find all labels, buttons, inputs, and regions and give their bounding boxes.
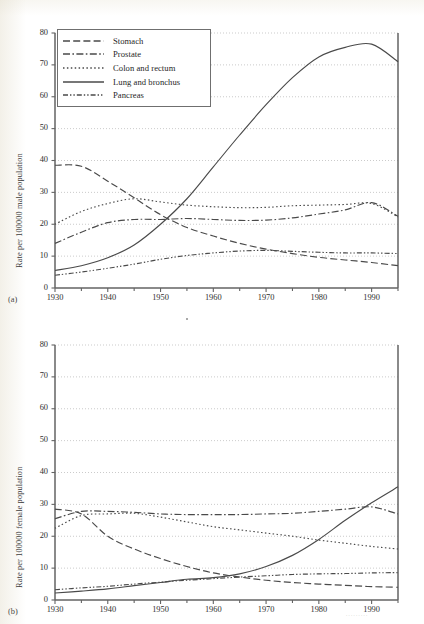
y-tick-label: 60 (26, 403, 48, 412)
legend-item: Stomach (63, 34, 203, 48)
x-tick-label: 1960 (193, 605, 233, 614)
legend-label: Colon and rectum (113, 63, 175, 73)
panel-letter-b: (b) (8, 607, 18, 616)
plot-area-b (0, 312, 424, 624)
figure-panel-a: Rate per 100000 male population 01020304… (0, 0, 424, 312)
x-tick-label: 1940 (88, 293, 128, 302)
y-tick-label: 70 (26, 59, 48, 68)
x-tick-label: 1990 (352, 293, 392, 302)
series-line-colon-and-rectum (55, 513, 398, 549)
y-tick-label: 0 (26, 283, 48, 292)
y-tick-label: 80 (26, 340, 48, 349)
series-line-pancreas (55, 250, 398, 275)
x-tick-label: 1930 (35, 605, 75, 614)
legend-label: Pancreas (113, 90, 144, 100)
y-axis-title-a: Rate per 100000 male population (15, 153, 24, 268)
y-tick-label: 40 (26, 467, 48, 476)
legend-swatch-dash-dot-dot-icon (63, 90, 104, 100)
legend-label: Prostate (113, 49, 141, 59)
x-tick-label: 1950 (141, 293, 181, 302)
series-line-lung-and-bronchus (55, 487, 398, 593)
x-tick-label: 1980 (299, 293, 339, 302)
legend-item: Pancreas (63, 88, 203, 102)
scan-speck (186, 318, 188, 320)
legend-swatch-dash-dot-icon (63, 49, 104, 59)
panel-letter-a: (a) (8, 295, 17, 304)
legend-a: StomachProstateColon and rectumLung and … (57, 29, 211, 107)
x-tick-label: 1950 (141, 605, 181, 614)
y-tick-label: 40 (26, 155, 48, 164)
y-tick-label: 60 (26, 91, 48, 100)
x-tick-label: 1980 (299, 605, 339, 614)
y-tick-label: 10 (26, 251, 48, 260)
x-tick-label: 1960 (193, 293, 233, 302)
y-tick-label: 20 (26, 531, 48, 540)
y-tick-label: 20 (26, 219, 48, 228)
x-tick-label: 1940 (88, 605, 128, 614)
scan-edge-mark: . . . . . . . . . (346, 612, 367, 617)
y-tick-label: 0 (26, 595, 48, 604)
y-tick-label: 30 (26, 499, 48, 508)
y-tick-label: 50 (26, 435, 48, 444)
y-axis-title-b: Rate per 100000 female population (15, 467, 24, 588)
series-line-prostate (55, 202, 398, 243)
y-tick-label: 50 (26, 123, 48, 132)
legend-swatch-dashed-icon (63, 36, 104, 46)
legend-item: Lung and bronchus (63, 75, 203, 89)
legend-item: Colon and rectum (63, 61, 203, 75)
legend-label: Lung and bronchus (113, 77, 180, 87)
x-tick-label: 1970 (246, 293, 286, 302)
legend-label: Stomach (113, 36, 143, 46)
x-tick-label: 1930 (35, 293, 75, 302)
figure-panel-b: Rate per 100000 female population 010203… (0, 312, 424, 624)
y-tick-label: 10 (26, 563, 48, 572)
y-tick-label: 80 (26, 28, 48, 37)
legend-swatch-dotted-icon (63, 63, 104, 73)
y-tick-label: 30 (26, 187, 48, 196)
legend-item: Prostate (63, 48, 203, 62)
y-tick-label: 70 (26, 371, 48, 380)
series-line-breast (55, 507, 398, 519)
x-tick-label: 1970 (246, 605, 286, 614)
series-line-stomach (55, 165, 398, 266)
legend-swatch-solid-icon (63, 77, 104, 87)
line-chart-b (0, 312, 424, 624)
